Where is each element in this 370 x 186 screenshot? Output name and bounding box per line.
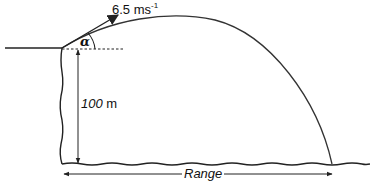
speed-exponent: -1 — [151, 1, 158, 10]
range-label: Range — [182, 166, 224, 181]
trajectory-curve — [62, 16, 332, 164]
height-unit: m — [106, 96, 117, 111]
projectile-diagram: 6.5 ms-1 α 100 m Range — [0, 0, 370, 186]
launch-angle-label: α — [80, 34, 90, 49]
launch-speed-label: 6.5 ms-1 — [112, 1, 158, 17]
speed-value: 6.5 ms — [112, 2, 151, 17]
ground-line — [62, 163, 370, 165]
cliff-wall — [60, 48, 63, 164]
cliff-height-label: 100 m — [81, 96, 117, 111]
height-value: 100 — [81, 96, 103, 111]
diagram-drawing — [0, 0, 370, 186]
